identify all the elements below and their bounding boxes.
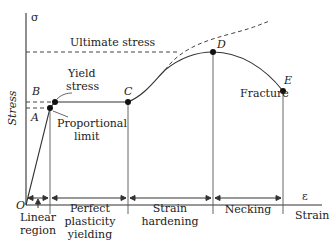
fracture-annotation: Fracture — [240, 87, 289, 100]
point-c — [125, 99, 131, 105]
proportional-limit-annotation-line1: Proportional — [57, 117, 127, 130]
point-d-label: D — [216, 38, 226, 51]
yield-stress-annotation-line1: Yield — [67, 67, 96, 80]
region-hardening-line1: Strain — [153, 202, 187, 215]
region-hardening-line2: hardening — [141, 215, 198, 228]
point-d — [210, 49, 216, 55]
region-plasticity-line2: plasticity — [64, 215, 116, 228]
point-b — [52, 99, 58, 105]
x-axis-symbol: ε — [302, 190, 308, 203]
y-axis-label: Stress — [6, 90, 19, 125]
region-plasticity-line1: Perfect — [70, 202, 110, 215]
region-necking-label: Necking — [225, 203, 272, 216]
region-linear-line2: region — [20, 224, 56, 237]
y-axis-symbol: σ — [31, 11, 39, 24]
point-e-label: E — [283, 74, 292, 87]
yield-stress-leader — [57, 93, 72, 99]
point-c-label: C — [124, 85, 133, 98]
yield-stress-annotation-line2: stress — [66, 80, 99, 93]
x-axis-label: Strain — [295, 209, 329, 222]
ultimate-stress-label: Ultimate stress — [70, 36, 156, 49]
proportional-limit-annotation-line2: limit — [74, 130, 100, 143]
stress-strain-diagram: σ Stress ε Strain O Ultimate stress A B … — [0, 0, 335, 245]
region-linear-line1: Linear — [20, 211, 57, 224]
point-b-label: B — [31, 85, 40, 98]
point-a — [47, 105, 53, 111]
region-plasticity-line3: yielding — [67, 228, 112, 241]
point-a-label: A — [30, 111, 39, 124]
